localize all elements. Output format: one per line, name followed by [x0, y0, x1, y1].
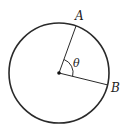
- angle-arc: [64, 60, 73, 77]
- diagram-canvas: A B θ: [0, 0, 124, 127]
- radius-to-b: [59, 73, 108, 85]
- circle-diagram: A B θ: [0, 0, 124, 127]
- label-b: B: [110, 81, 120, 95]
- label-a: A: [74, 9, 84, 23]
- label-theta: θ: [73, 57, 80, 70]
- center-point: [57, 71, 61, 75]
